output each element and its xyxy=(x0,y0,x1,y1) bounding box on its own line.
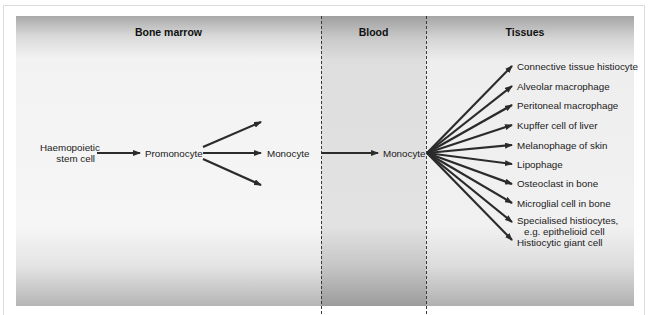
tissue-cell-1: Connective tissue histiocyte xyxy=(517,61,638,72)
node-monocyte-marrow: Monocyte xyxy=(267,148,309,159)
tissue-cell-8: Microglial cell in bone xyxy=(517,198,611,209)
tissue-cell-9b: e.g. epithelioid cell xyxy=(524,226,605,237)
arrow-promonocyte-down xyxy=(203,159,261,185)
tissue-cell-7: Osteoclast in bone xyxy=(517,178,598,189)
tissue-cell-9a: Specialised histiocytes, xyxy=(517,215,618,226)
tissue-cell-10: Histiocytic giant cell xyxy=(517,237,602,248)
node-monocyte-blood: Monocyte xyxy=(383,148,425,159)
tissue-cell-5: Melanophage of skin xyxy=(517,140,607,151)
node-stem-cell: Haemopoietic stem cell xyxy=(40,142,95,164)
tissue-cell-6: Lipophage xyxy=(517,159,563,170)
arrow-tissue-2 xyxy=(427,86,512,153)
tissue-cell-2: Alveolar macrophage xyxy=(517,81,610,92)
tissue-cell-4: Kupffer cell of liver xyxy=(517,120,597,131)
arrow-promonocyte-up xyxy=(203,122,261,147)
stem-cell-label-line1: Haemopoietic xyxy=(40,142,95,153)
tissue-cell-3: Peritoneal macrophage xyxy=(517,100,618,111)
stem-cell-label-line2: stem cell xyxy=(40,153,95,164)
node-promonocyte: Promonocyte xyxy=(145,148,203,159)
arrows-layer xyxy=(0,0,648,315)
